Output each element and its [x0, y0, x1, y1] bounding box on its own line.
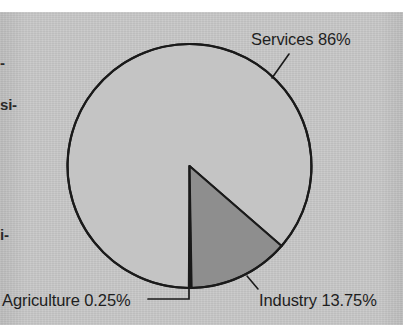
scanned-page: - si- i- Services 86% Industry 13.75% Ag… — [0, 0, 410, 332]
leader-line-industry — [247, 276, 258, 289]
pie-label-services: Services 86% — [251, 30, 351, 49]
leader-line-agriculture — [148, 288, 189, 299]
pie-label-agriculture: Agriculture 0.25% — [2, 291, 131, 310]
pie-chart — [0, 0, 410, 332]
pie-label-industry: Industry 13.75% — [259, 291, 377, 310]
leader-line-services — [272, 54, 289, 78]
